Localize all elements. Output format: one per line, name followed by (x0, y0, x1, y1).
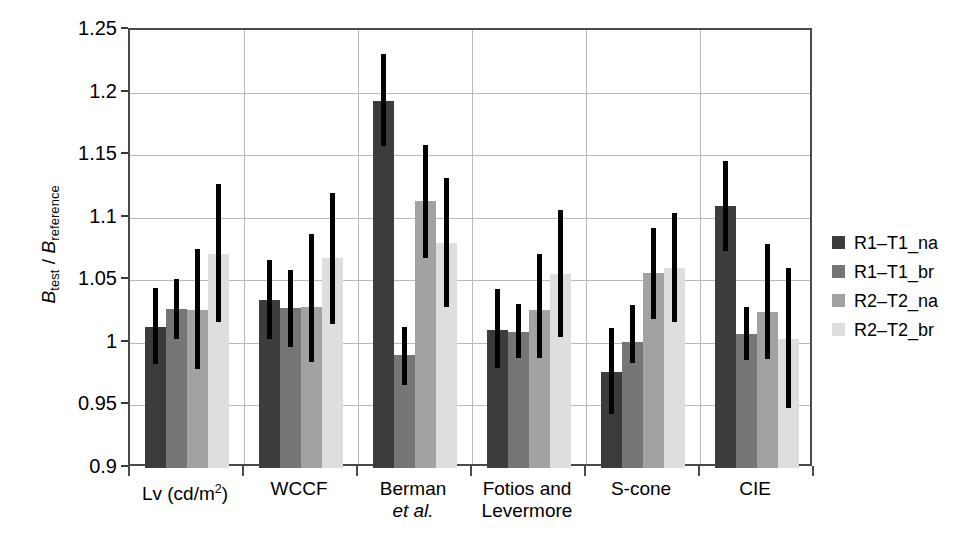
y-axis-tick-label: 1.15 (55, 143, 117, 163)
x-axis-tick-mark (356, 466, 358, 476)
y-axis-tick-label: 1.25 (55, 18, 117, 38)
error-bar (558, 210, 563, 336)
x-axis-tick-mark (470, 466, 472, 476)
x-axis-tick-mark (584, 466, 586, 476)
error-bar (609, 328, 614, 414)
error-bar (381, 54, 386, 147)
x-axis-group-label-line: S-cone (584, 478, 698, 500)
figure-canvas: Btest / Breference 0.90.9511.051.11.151.… (0, 0, 976, 549)
error-bar (786, 268, 791, 408)
x-axis-group-label: CIE (698, 478, 812, 500)
x-axis-group-label-superscript: 2 (215, 482, 222, 496)
error-bar (309, 234, 314, 362)
x-axis-group-label-line: Levermore (470, 500, 584, 522)
bar (373, 101, 394, 468)
gridline-group-separator (472, 30, 473, 464)
plot-area (128, 28, 812, 466)
gridline-group-separator (244, 30, 245, 464)
gridline-horizontal (130, 93, 810, 94)
y-axis-tick-label: 1.1 (55, 206, 117, 226)
y-axis-tick-label: 1 (55, 331, 117, 351)
gridline-horizontal (130, 280, 810, 281)
gridline-group-separator (700, 30, 701, 464)
legend-item-label: R2–T2_br (854, 321, 934, 339)
y-axis-tick-mark (121, 340, 128, 342)
x-axis-group-label: WCCF (242, 478, 356, 500)
y-axis-tick-mark (121, 90, 128, 92)
error-bar (153, 288, 158, 364)
error-bar (195, 249, 200, 369)
y-axis-tick-mark (121, 152, 128, 154)
gridline-horizontal (130, 405, 810, 406)
x-axis-group-label-line: Fotios and (470, 478, 584, 500)
error-bar (444, 178, 449, 307)
legend-item-label: R1–T1_na (854, 234, 938, 252)
y-axis-tick-mark (121, 215, 128, 217)
gridline-group-separator (358, 30, 359, 464)
error-bar (216, 184, 221, 322)
legend-item[interactable]: R2–T2_br (832, 315, 976, 344)
error-bar (423, 145, 428, 258)
gridline-horizontal (130, 343, 810, 344)
error-bar (174, 279, 179, 339)
error-bar (630, 305, 635, 363)
y-axis-tick-label: 1.05 (55, 268, 117, 288)
x-axis-tick-mark (812, 466, 814, 476)
y-axis-tick-mark (121, 27, 128, 29)
legend-item-label: R2–T2_na (854, 292, 938, 310)
legend: R1–T1_naR1–T1_brR2–T2_naR2–T2_br (832, 228, 976, 344)
y-axis-tick-mark (121, 402, 128, 404)
y-axis-tick-label: 0.9 (55, 456, 117, 476)
plot-inner (130, 30, 810, 464)
gridline-horizontal (130, 218, 810, 219)
x-axis-group-label-line: WCCF (242, 478, 356, 500)
x-axis-group-label-line: Berman (356, 478, 470, 500)
x-axis-group-label: Fotios andLevermore (470, 478, 584, 522)
legend-swatch-icon (832, 265, 845, 278)
error-bar (537, 254, 542, 358)
error-bar (765, 244, 770, 359)
x-axis-group-label-line: et al. (356, 500, 470, 522)
error-bar (672, 213, 677, 322)
legend-item-label: R1–T1_br (854, 263, 934, 281)
error-bar (495, 289, 500, 368)
error-bar (516, 304, 521, 358)
error-bar (402, 327, 407, 386)
x-axis-group-label: S-cone (584, 478, 698, 500)
y-axis-tick-mark (121, 465, 128, 467)
y-axis-tick-label: 0.95 (55, 393, 117, 413)
legend-item[interactable]: R2–T2_na (832, 286, 976, 315)
x-axis-group-label: Bermanet al. (356, 478, 470, 522)
x-axis-group-label-italic: et al. (392, 500, 433, 521)
error-bar (330, 193, 335, 324)
legend-swatch-icon (832, 323, 845, 336)
y-axis-tick-labels: 0.90.9511.051.11.151.21.25 (55, 0, 117, 549)
y-axis-tick-mark (121, 277, 128, 279)
x-axis-tick-mark (242, 466, 244, 476)
error-bar (744, 307, 749, 361)
error-bar (288, 270, 293, 346)
legend-item[interactable]: R1–T1_br (832, 257, 976, 286)
x-axis-tick-mark (698, 466, 700, 476)
error-bar (267, 260, 272, 339)
x-axis-tick-mark (128, 466, 130, 476)
error-bar (651, 228, 656, 319)
error-bar (723, 161, 728, 251)
gridline-group-separator (586, 30, 587, 464)
x-axis-group-label: Lv (cd/m2) (128, 478, 242, 505)
legend-swatch-icon (832, 294, 845, 307)
y-axis-tick-label: 1.2 (55, 81, 117, 101)
legend-swatch-icon (832, 236, 845, 249)
x-axis-group-label-line: CIE (698, 478, 812, 500)
x-axis-group-label-line: Lv (cd/m2) (128, 478, 242, 505)
gridline-horizontal (130, 155, 810, 156)
legend-item[interactable]: R1–T1_na (832, 228, 976, 257)
